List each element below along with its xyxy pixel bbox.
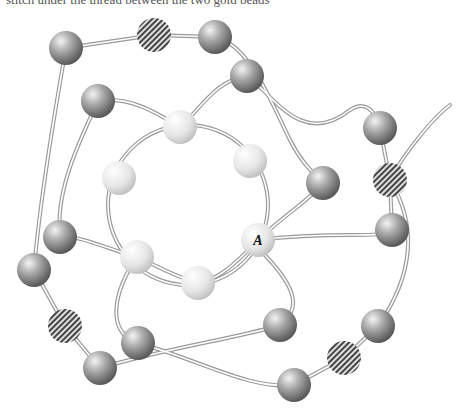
gold-bead xyxy=(327,341,361,375)
ring-bead xyxy=(181,266,215,300)
gray-bead xyxy=(43,220,77,254)
gray-bead xyxy=(81,84,115,118)
gray-bead xyxy=(361,309,395,343)
gray-bead xyxy=(83,351,117,385)
gray-bead xyxy=(198,20,232,54)
gold-bead xyxy=(373,163,407,197)
gray-bead xyxy=(263,308,297,342)
gray-bead xyxy=(363,111,397,145)
bead-diagram: A xyxy=(0,0,468,415)
bead-label-a: A xyxy=(252,233,262,248)
gray-bead xyxy=(121,326,155,360)
ring-bead xyxy=(163,110,197,144)
gray-bead xyxy=(306,166,340,200)
gray-bead xyxy=(277,368,311,402)
gray-bead xyxy=(49,31,83,65)
gold-bead xyxy=(137,18,171,52)
ring-bead xyxy=(233,144,267,178)
ring-bead xyxy=(102,161,136,195)
gold-beads xyxy=(48,18,407,375)
gray-bead xyxy=(17,253,51,287)
ring-bead xyxy=(120,240,154,274)
gold-bead xyxy=(48,309,82,343)
gray-bead xyxy=(230,59,264,93)
gray-bead xyxy=(375,213,409,247)
